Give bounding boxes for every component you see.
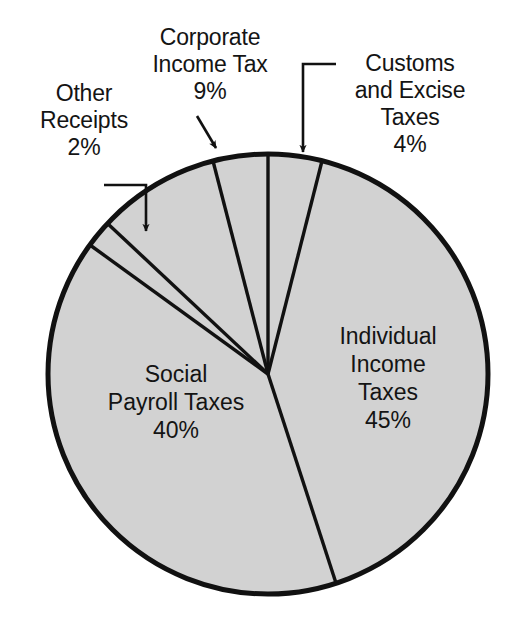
callout-corporate-income-tax: Corporate Income Tax 9% bbox=[122, 24, 298, 105]
slice-label-individual-income-taxes: Individual Income Taxes 45% bbox=[318, 322, 458, 434]
leader-corporate-income-tax bbox=[197, 116, 216, 148]
slice-label-social-payroll-taxes: Social Payroll Taxes 40% bbox=[86, 360, 266, 444]
callout-customs-and-excise: Customs and Excise Taxes 4% bbox=[326, 50, 494, 158]
pie-chart-figure: Other Receipts 2% Corporate Income Tax 9… bbox=[0, 0, 514, 627]
